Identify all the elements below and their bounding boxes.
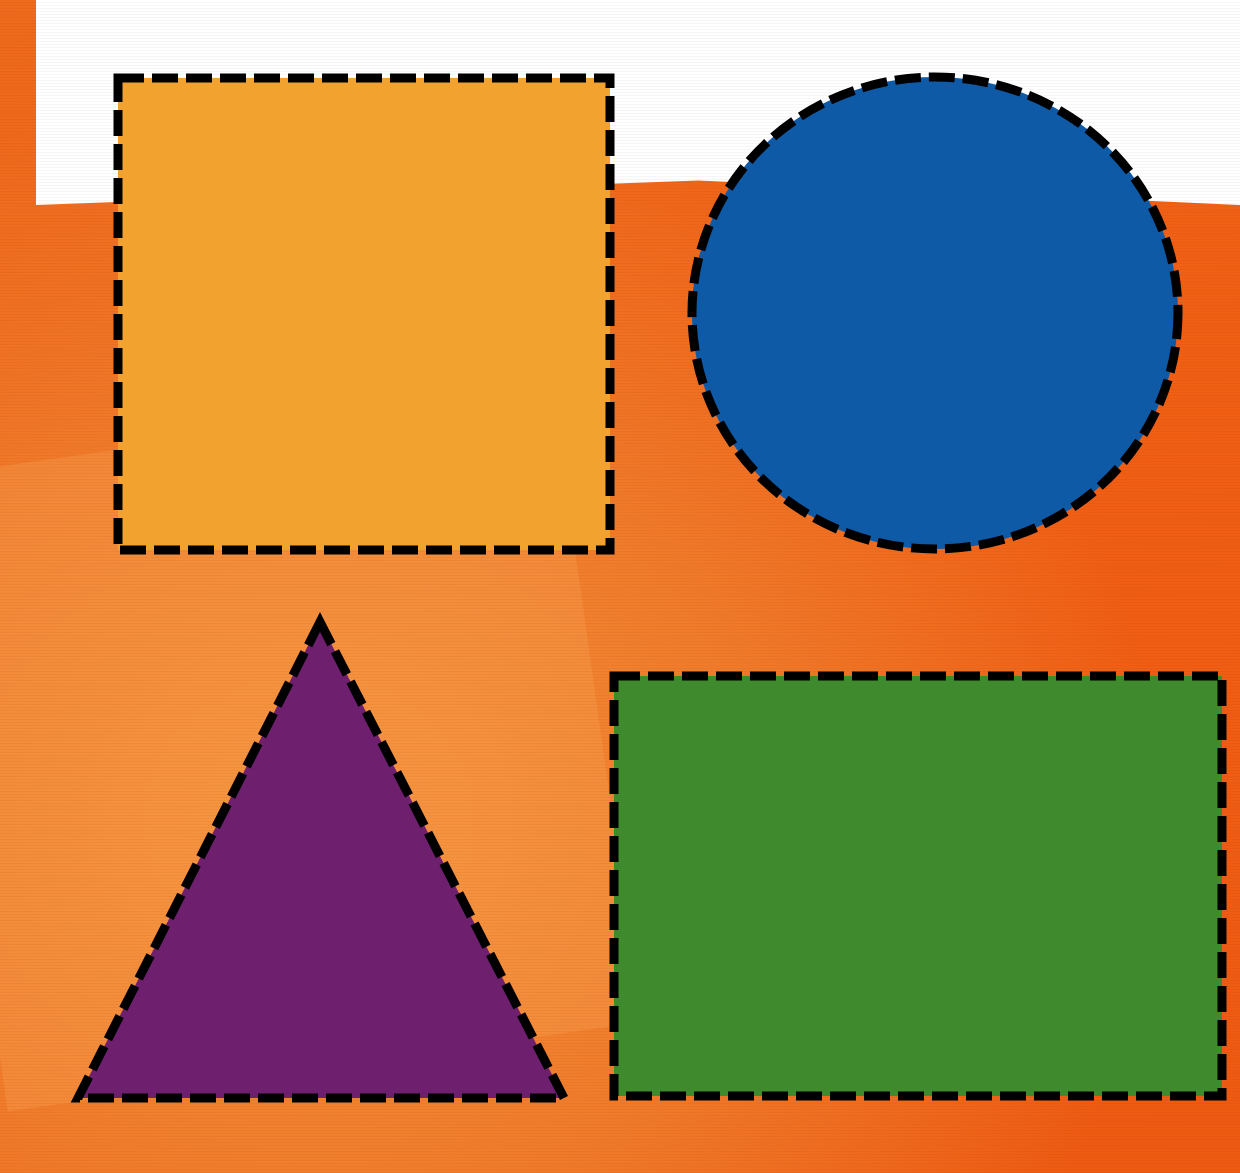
circle-shape — [692, 77, 1178, 549]
square-shape — [118, 78, 610, 550]
shapes-layer — [0, 0, 1240, 1173]
rectangle-shape — [614, 676, 1222, 1096]
shapes-canvas — [0, 0, 1240, 1173]
triangle-shape — [78, 622, 564, 1098]
